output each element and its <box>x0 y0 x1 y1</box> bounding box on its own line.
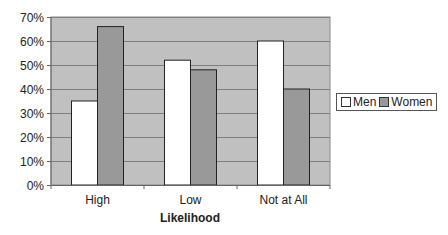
y-tick-label: 40% <box>20 83 44 97</box>
y-tick-label: 10% <box>20 155 44 169</box>
bar-men-high <box>72 101 98 185</box>
y-tick-label: 50% <box>20 59 44 73</box>
x-axis-title: Likelihood <box>160 211 220 225</box>
legend-swatch-women <box>379 97 389 107</box>
y-tick-label: 60% <box>20 35 44 49</box>
bar-women-not-at-all <box>284 89 310 185</box>
bar-women-low <box>191 70 217 185</box>
y-tick-label: 70% <box>20 11 44 25</box>
bar-women-high <box>98 27 124 185</box>
x-tick-label: High <box>85 193 110 207</box>
legend-label-women: Women <box>391 95 432 109</box>
x-tick-label: Low <box>179 193 201 207</box>
x-tick-label: Not at All <box>259 193 307 207</box>
bar-men-not-at-all <box>258 41 284 185</box>
y-tick-label: 0% <box>27 179 45 193</box>
y-tick-label: 30% <box>20 107 44 121</box>
legend: Men Women <box>336 93 437 111</box>
bar-chart: 0%10%20%30%40%50%60%70% HighLowNot at Al… <box>0 0 448 235</box>
x-axis: HighLowNot at All <box>51 185 330 207</box>
legend-swatch-men <box>341 97 351 107</box>
legend-label-men: Men <box>353 95 376 109</box>
legend-item-women: Women <box>379 95 432 109</box>
y-tick-label: 20% <box>20 131 44 145</box>
bar-men-low <box>165 60 191 185</box>
y-axis: 0%10%20%30%40%50%60%70% <box>20 11 51 193</box>
legend-item-men: Men <box>341 95 376 109</box>
